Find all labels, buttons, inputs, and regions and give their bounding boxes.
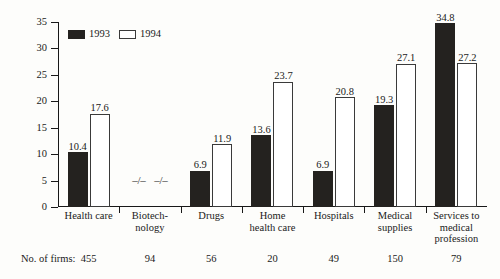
bar-value-label: 6.9	[316, 160, 329, 171]
no-of-firms-value: 56	[181, 254, 242, 265]
bar-1993: 34.8	[435, 23, 455, 207]
y-axis-tick	[51, 207, 58, 208]
category-label-line: Home	[242, 210, 303, 222]
bar-group: 6.911.9	[181, 22, 242, 207]
category-label: Health care	[58, 210, 119, 222]
bar-group: 13.623.7	[242, 22, 303, 207]
y-axis-tick-label: 30	[37, 43, 48, 54]
y-axis-tick-label: 35	[37, 17, 48, 28]
bar-value-label: 27.2	[458, 53, 476, 64]
y-axis-tick	[51, 22, 58, 23]
bar-value-label: 6.9	[194, 160, 207, 171]
y-axis-tick-label: 10	[37, 149, 48, 160]
bar-1993: 6.9	[313, 171, 333, 207]
bar-1994: 27.2	[457, 63, 477, 207]
category-label-line: Medical	[364, 210, 425, 222]
category-label-line: Hospitals	[303, 210, 364, 222]
bar-value-label: 19.3	[375, 95, 393, 106]
y-axis-tick	[51, 128, 58, 129]
category-label-line: Drugs	[181, 210, 242, 222]
bar-1993: 19.3	[374, 105, 394, 207]
category-label-line: Biotech-	[119, 210, 180, 222]
category-label: Drugs	[181, 210, 242, 222]
bar-group: 10.417.6	[58, 22, 119, 207]
category-label: Biotech-nology	[119, 210, 180, 233]
bar-no-data-marker: –/–	[132, 175, 145, 186]
bar-value-label: 13.6	[252, 125, 270, 136]
bar-1994: 11.9	[212, 144, 232, 207]
y-axis-tick-label: 25	[37, 70, 48, 81]
y-axis-tick-label: 5	[42, 175, 47, 186]
plot-area: 05101520253035 10.417.6–/––/–6.911.913.6…	[58, 22, 487, 207]
bar-value-label: 10.4	[68, 142, 86, 153]
bar-group: 19.327.1	[364, 22, 425, 207]
no-of-firms-value: 150	[364, 254, 425, 265]
bar-value-label: 34.8	[436, 13, 454, 24]
no-of-firms-value: 20	[242, 254, 303, 265]
category-label-line: Services to	[426, 210, 487, 222]
category-label: Homehealth care	[242, 210, 303, 233]
bar-1993: 6.9	[190, 171, 210, 207]
no-of-firms-value: 49	[303, 254, 364, 265]
category-label: Services tomedicalprofession	[426, 210, 487, 245]
bar-1993: 13.6	[251, 135, 271, 207]
no-of-firms-row: No. of firms: 4559456204915079	[0, 254, 500, 268]
y-axis-tick	[51, 75, 58, 76]
bar-group: 34.827.2	[426, 22, 487, 207]
bar-1994: 17.6	[90, 114, 110, 207]
bar-1994: 27.1	[396, 64, 416, 207]
no-of-firms-value: 79	[426, 254, 487, 265]
bar-value-label: 23.7	[274, 71, 292, 82]
bar-chart: 1993 1994 05101520253035 10.417.6–/––/–6…	[0, 0, 500, 279]
y-axis-tick	[51, 154, 58, 155]
y-axis-tick	[51, 48, 58, 49]
y-axis-tick-label: 0	[42, 202, 47, 213]
category-label-line: health care	[242, 222, 303, 234]
y-axis-tick	[51, 181, 58, 182]
bar-group: 6.920.8	[303, 22, 364, 207]
y-axis-tick-label: 20	[37, 96, 48, 107]
bar-no-data-marker: –/–	[154, 175, 167, 186]
category-label-line: medical	[426, 222, 487, 234]
category-label-line: nology	[119, 222, 180, 234]
no-of-firms-value: 455	[58, 254, 119, 265]
x-axis-category-labels: Health careBiotech-nologyDrugsHomehealth…	[58, 210, 487, 252]
bar-value-label: 11.9	[213, 134, 231, 145]
bar-1994: 23.7	[273, 82, 293, 207]
y-axis-tick	[51, 101, 58, 102]
category-label-line: supplies	[364, 222, 425, 234]
category-label: Hospitals	[303, 210, 364, 222]
category-label-line: Health care	[58, 210, 119, 222]
bar-value-label: 27.1	[397, 53, 415, 64]
bar-1993: 10.4	[68, 152, 88, 207]
category-label: Medicalsupplies	[364, 210, 425, 233]
no-of-firms-value: 94	[119, 254, 180, 265]
category-label-line: profession	[426, 233, 487, 245]
bar-value-label: 17.6	[90, 103, 108, 114]
bar-value-label: 20.8	[336, 87, 354, 98]
bar-group: –/––/–	[119, 22, 180, 207]
bar-1994: 20.8	[335, 97, 355, 207]
y-axis-tick-label: 15	[37, 122, 48, 133]
